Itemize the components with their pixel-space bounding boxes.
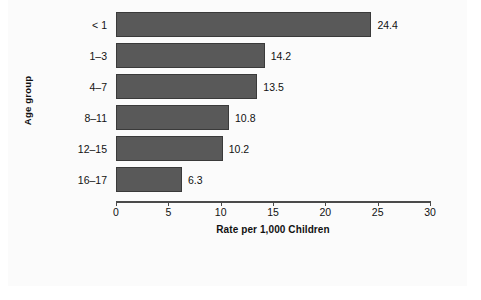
category-label: 12–15 (78, 143, 107, 155)
bar-value-label: 10.8 (235, 112, 255, 124)
category-label: 8–11 (84, 112, 107, 124)
bar (116, 105, 229, 130)
bar-row: < 124.4 (116, 12, 436, 37)
bar-value-label: 14.2 (271, 50, 291, 62)
x-axis-tick-label: 10 (215, 206, 227, 218)
plot-canvas: Age group < 124.41–314.24–713.58–1110.81… (8, 0, 467, 286)
category-label: 4–7 (89, 81, 107, 93)
bar-row: 4–713.5 (116, 74, 436, 99)
y-axis-title: Age group (22, 61, 33, 141)
bar-row: 1–314.2 (116, 43, 436, 68)
x-axis-tick-label: 15 (267, 206, 279, 218)
x-axis-tick-label: 0 (113, 206, 119, 218)
x-axis-tick-label: 20 (319, 206, 331, 218)
bar-row: 12–1510.2 (116, 136, 436, 161)
category-label: 16–17 (78, 174, 107, 186)
bar (116, 12, 371, 37)
bar (116, 74, 257, 99)
x-axis-tick-label: 25 (372, 206, 384, 218)
bar-value-label: 13.5 (263, 81, 283, 93)
bar-row: 8–1110.8 (116, 105, 436, 130)
bar (116, 43, 265, 68)
x-axis-tick-label: 5 (165, 206, 171, 218)
bar (116, 136, 223, 161)
category-label: < 1 (92, 19, 107, 31)
bars-container: < 124.41–314.24–713.58–1110.812–1510.216… (116, 12, 436, 209)
bar-row: 16–176.3 (116, 167, 436, 192)
bar (116, 167, 182, 192)
bar-value-label: 10.2 (229, 143, 249, 155)
chart-figure: Age group < 124.41–314.24–713.58–1110.81… (8, 0, 467, 286)
bar-value-label: 24.4 (377, 19, 397, 31)
x-axis-tick-label: 30 (424, 206, 436, 218)
bar-value-label: 6.3 (188, 174, 203, 186)
x-axis-title: Rate per 1,000 Children (116, 224, 430, 235)
category-label: 1–3 (89, 50, 107, 62)
